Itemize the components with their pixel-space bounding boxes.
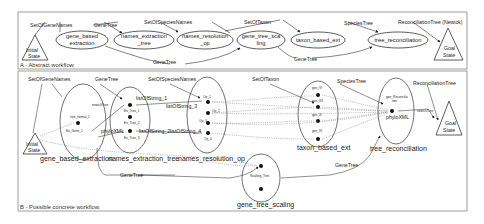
svg-text:State: State <box>28 53 40 59</box>
svg-text:extraction: extraction <box>69 40 94 46</box>
panel-a-abstract-workflow: Initial State Goal State gene_based extr… <box>18 12 467 69</box>
node-gene-based-extraction-a: gene_based extraction <box>56 31 108 49</box>
svg-text:tree_format_1: tree_format_1 <box>70 115 90 119</box>
svg-text:Goal: Goal <box>444 45 455 51</box>
svg-text:Ex_Tree_2: Ex_Tree_2 <box>124 121 140 125</box>
svg-text:Scalling_Tree: Scalling_Tree <box>250 174 270 178</box>
svg-text:SetOfGeneNames: SetOfGeneNames <box>30 22 73 28</box>
svg-text:phyloXML: phyloXML <box>101 128 124 134</box>
svg-text:gene_tree_scaling: gene_tree_scaling <box>237 201 294 209</box>
svg-text:State: State <box>28 147 40 153</box>
svg-text:taxon_based_ext: taxon_based_ext <box>297 144 350 152</box>
svg-text:SetOfTaxon: SetOfTaxon <box>244 19 271 25</box>
svg-text:listOfString_2: listOfString_2 <box>139 128 170 134</box>
svg-text:_tree: _tree <box>136 40 150 46</box>
svg-text:gene_based_extraction: gene_based_extraction <box>40 155 113 163</box>
svg-text:Ex_Tree_1: Ex_Tree_1 <box>124 109 140 113</box>
svg-text:Op_4: Op_4 <box>204 137 212 141</box>
svg-text:SpeciesTree: SpeciesTree <box>337 78 366 84</box>
service-gene-tree-scaling <box>242 154 280 202</box>
svg-text:tree_reconciliation: tree_reconciliation <box>370 145 427 153</box>
svg-text:names_extraction: names_extraction <box>121 33 167 39</box>
svg-text:listOfString_4: listOfString_4 <box>170 128 201 134</box>
svg-text:SetOfTaxon: SetOfTaxon <box>252 76 279 82</box>
panel-a-caption: A - Abstract workflow <box>20 62 75 68</box>
svg-text:names_extraction_tree: names_extraction_tree <box>108 155 179 163</box>
svg-text:SpeciesTree: SpeciesTree <box>344 20 373 26</box>
svg-text:SetOfGeneNames: SetOfGeneNames <box>28 76 71 82</box>
svg-text:Op_2: Op_2 <box>212 109 220 113</box>
svg-text:_op: _op <box>199 40 210 46</box>
svg-text:taxon_based_ext: taxon_based_ext <box>296 37 341 43</box>
svg-text:GeneTree: GeneTree <box>94 22 117 28</box>
svg-text:tree_reconciliation: tree_reconciliation <box>374 37 421 43</box>
service-tree-reconciliation <box>378 78 414 144</box>
svg-text:names_resolution_op: names_resolution_op <box>178 155 245 163</box>
svg-text:gen_VII: gen_VII <box>312 99 323 103</box>
svg-text:GeneTree: GeneTree <box>335 162 358 168</box>
svg-text:GeneTree: GeneTree <box>95 76 118 82</box>
svg-text:gene_based: gene_based <box>66 33 98 39</box>
svg-text:newickTree: newickTree <box>92 103 108 107</box>
node-tree-reconciliation-a: tree_reconciliation <box>368 32 428 48</box>
svg-text:phyloXML: phyloXML <box>386 114 409 120</box>
svg-text:listOfString_1: listOfString_1 <box>136 95 167 101</box>
svg-text:Op_3: Op_3 <box>199 119 207 123</box>
svg-text:ReconciliationTree (Newick): ReconciliationTree (Newick) <box>398 19 463 25</box>
svg-text:State: State <box>443 127 455 133</box>
panel-b-concrete-workflow: Initial State Goal State gene_based_extr… <box>18 71 467 211</box>
node-names-extraction-tree-a: names_extraction _tree <box>114 31 174 49</box>
service-names-resolution-op <box>187 77 227 153</box>
svg-text:State: State <box>443 52 455 58</box>
svg-text:ReconciliationTree: ReconciliationTree <box>413 80 456 86</box>
svg-text:gen_IV: gen_IV <box>312 129 323 133</box>
svg-text:Ex_Tree_3: Ex_Tree_3 <box>124 136 140 140</box>
svg-text:names_resolution: names_resolution <box>182 33 228 39</box>
svg-text:listOfString_3: listOfString_3 <box>166 103 197 109</box>
svg-text:tion: tion <box>392 99 397 103</box>
svg-text:newickTree: newickTree <box>417 109 433 113</box>
service-gene-based-extraction <box>60 84 106 160</box>
svg-text:Goal: Goal <box>445 120 456 126</box>
svg-text:SetOfSpeciesNames: SetOfSpeciesNames <box>144 19 193 25</box>
svg-text:gen_VI: gen_VI <box>312 86 322 90</box>
svg-text:gene_tree_sca: gene_tree_sca <box>242 33 281 39</box>
svg-text:GeneTree: GeneTree <box>120 172 143 178</box>
node-taxon-based-ext-a: taxon_based_ext <box>291 32 345 48</box>
workflow-figure: Initial State Goal State gene_based extr… <box>0 0 484 224</box>
svg-text:ling: ling <box>256 40 265 46</box>
svg-text:SetOfSpeciesNames: SetOfSpeciesNames <box>148 76 197 82</box>
svg-text:Ex_Gene_1: Ex_Gene_1 <box>66 129 83 133</box>
svg-text:Op_1: Op_1 <box>203 95 211 99</box>
node-names-resolution-op-a: names_resolution _op <box>177 31 233 49</box>
node-gene-tree-scaling-a: gene_tree_sca ling <box>237 31 285 49</box>
svg-text:GeneTree: GeneTree <box>294 56 317 62</box>
svg-text:GeneTree: GeneTree <box>153 59 176 65</box>
panel-b-caption: B - Possible concrete workflow. <box>20 204 101 210</box>
